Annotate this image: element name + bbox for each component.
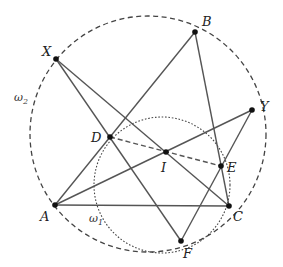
point-x bbox=[53, 56, 59, 62]
segment-ac bbox=[55, 205, 229, 206]
point-label-f: F bbox=[182, 246, 193, 261]
point-label-i: I bbox=[160, 160, 167, 175]
circle-omega1-label: ω1 bbox=[89, 212, 103, 227]
segments bbox=[55, 32, 252, 241]
point-label-a: A bbox=[39, 209, 49, 224]
point-y bbox=[249, 107, 255, 113]
segment-ay bbox=[55, 110, 252, 205]
geometry-diagram: ω2 ω1 XBYDIEACF bbox=[0, 0, 283, 267]
point-a bbox=[52, 202, 58, 208]
point-b bbox=[192, 29, 198, 35]
point-label-e: E bbox=[226, 160, 237, 175]
point-label-d: D bbox=[90, 130, 102, 145]
point-i bbox=[163, 149, 169, 155]
point-e bbox=[218, 163, 224, 169]
circle-omega1 bbox=[94, 117, 230, 253]
segment-bc bbox=[195, 32, 229, 206]
diagram-svg: ω2 ω1 XBYDIEACF bbox=[0, 0, 283, 267]
point-label-c: C bbox=[233, 209, 243, 224]
point-d bbox=[107, 134, 113, 140]
point-f bbox=[178, 238, 184, 244]
point-label-x: X bbox=[41, 44, 52, 59]
circle-omega2 bbox=[30, 16, 266, 252]
circles bbox=[30, 16, 266, 253]
point-label-b: B bbox=[201, 14, 212, 29]
circle-omega2-label: ω2 bbox=[14, 91, 28, 106]
point-label-y: Y bbox=[260, 99, 270, 114]
point-c bbox=[226, 203, 232, 209]
segment-ab bbox=[55, 32, 195, 205]
